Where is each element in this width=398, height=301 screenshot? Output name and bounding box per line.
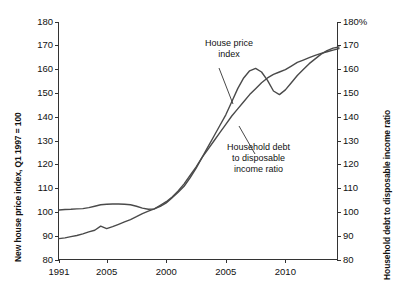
y-tick-label-left: 180 — [37, 16, 53, 27]
y-tick-label-right: 130 — [343, 135, 359, 146]
x-tick-label-3: 2005 — [215, 266, 236, 277]
annotation-debt-line1: Household debt — [227, 142, 290, 153]
y-tick-label-left: 110 — [38, 182, 53, 193]
y-tick-label-left: 90 — [42, 230, 53, 241]
annotation-hpi-line2: index — [205, 49, 253, 60]
y-tick-label-left: 160 — [37, 63, 53, 74]
annotation-debt-line3: income ratio — [227, 164, 290, 175]
annotation-leader-lines — [59, 22, 339, 260]
y-tick-label-right: 160 — [343, 63, 359, 74]
y-tick-label-right: 120 — [343, 158, 359, 169]
y-tick-label-right: 180% — [343, 16, 367, 27]
x-tick-label-0: 1991 — [48, 266, 69, 277]
y-tick-label-left: 130 — [37, 135, 53, 146]
annotation-hpi-line1: House price — [205, 38, 253, 49]
x-tick-label-1: 2005 — [96, 266, 117, 277]
y-tick-label-left: 140 — [37, 111, 53, 122]
y-tick-label-left: 80 — [42, 254, 53, 265]
annotation-debt-line2: to disposable — [227, 153, 290, 164]
y-tick-label-right: 170 — [343, 39, 359, 50]
y-tick-label-right: 150 — [343, 87, 359, 98]
y-tick-label-right: 90 — [343, 230, 354, 241]
y-tick-label-left: 170 — [37, 39, 53, 50]
x-tick-label-4: 2010 — [275, 266, 296, 277]
annotation-house-price-index: House price index — [205, 38, 253, 60]
y-tick-label-right: 100 — [343, 206, 359, 217]
x-tick-label-2: 2000 — [156, 266, 177, 277]
y-axis-title-left: New house price index, Q1 1997 = 100 — [13, 112, 23, 262]
y-tick-label-left: 120 — [37, 158, 53, 169]
annotation-household-debt: Household debt to disposable income rati… — [227, 142, 290, 175]
y-axis-title-right: Household debt to disposable income rati… — [382, 110, 392, 280]
y-tick-label-right: 80 — [343, 254, 354, 265]
y-tick-label-right: 140 — [343, 111, 359, 122]
chart-figure: New house price index, Q1 1997 = 100 Hou… — [0, 0, 398, 301]
y-tick-label-left: 150 — [37, 87, 53, 98]
y-tick-label-left: 100 — [37, 206, 53, 217]
plot-area: 8080909010010011011012012013013014014015… — [58, 22, 338, 260]
y-tick-label-right: 110 — [343, 182, 358, 193]
